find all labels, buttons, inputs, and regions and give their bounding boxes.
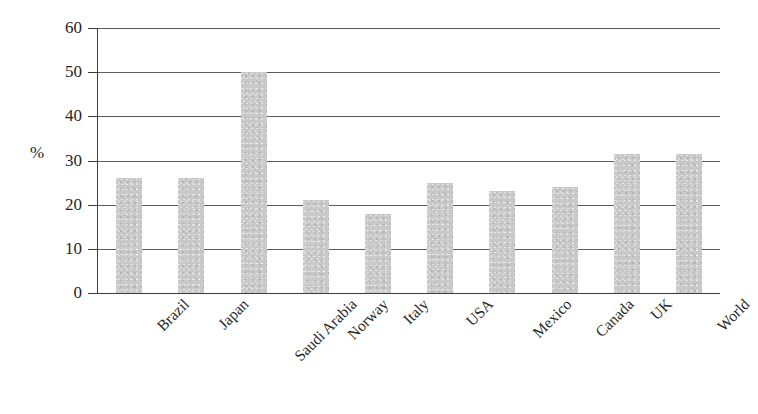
- bar-norway: [303, 200, 329, 293]
- y-tick-mark-30: [88, 161, 98, 162]
- gridline-0: [98, 293, 720, 294]
- x-tick-label-canada: Canada: [592, 296, 636, 340]
- bar-japan: [178, 178, 204, 293]
- bar-world: [676, 154, 702, 293]
- y-tick-label-30: 30: [52, 152, 82, 169]
- x-tick-label-japan: Japan: [216, 296, 252, 332]
- plot-area: [98, 28, 720, 293]
- x-tick-label-world: World: [714, 296, 752, 334]
- y-tick-label-50: 50: [52, 63, 82, 80]
- y-tick-label-0: 0: [52, 284, 82, 301]
- y-tick-label-60: 60: [52, 19, 82, 36]
- x-tick-label-italy: Italy: [400, 296, 431, 327]
- y-tick-mark-40: [88, 116, 98, 117]
- x-tick-label-brazil: Brazil: [154, 296, 192, 334]
- bar-mexico: [489, 191, 515, 293]
- y-tick-labels: 6050403020100: [52, 0, 82, 414]
- x-tick-label-usa: USA: [463, 296, 496, 329]
- gridline-50: [98, 72, 720, 73]
- bar-italy: [365, 214, 391, 294]
- x-tick-label-uk: UK: [647, 296, 674, 323]
- x-tick-label-mexico: Mexico: [530, 296, 575, 341]
- y-tick-mark-10: [88, 249, 98, 250]
- bar-uk: [614, 154, 640, 293]
- bar-usa: [427, 183, 453, 293]
- y-tick-label-10: 10: [52, 240, 82, 257]
- bar-canada: [552, 187, 578, 293]
- gridline-40: [98, 116, 720, 117]
- y-tick-label-40: 40: [52, 107, 82, 124]
- y-tick-mark-0: [88, 293, 98, 294]
- y-tick-mark-60: [88, 28, 98, 29]
- x-tick-labels: BrazilJapanSaudi ArabiaNorwayItalyUSAMex…: [98, 296, 720, 414]
- y-tick-mark-50: [88, 72, 98, 73]
- bar-chart: % 6050403020100 BrazilJapanSaudi ArabiaN…: [0, 0, 758, 414]
- gridline-60: [98, 28, 720, 29]
- bar-brazil: [116, 178, 142, 293]
- y-axis-title: %: [30, 143, 44, 163]
- y-tick-mark-20: [88, 205, 98, 206]
- bar-saudi-arabia: [241, 72, 267, 293]
- y-tick-label-20: 20: [52, 196, 82, 213]
